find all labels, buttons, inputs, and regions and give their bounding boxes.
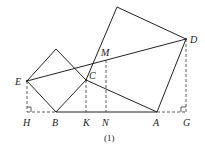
label-C: C bbox=[89, 70, 96, 81]
segment-ED bbox=[27, 39, 186, 81]
label-B: B bbox=[52, 117, 58, 128]
label-K: K bbox=[82, 117, 91, 128]
label-A: A bbox=[152, 117, 160, 128]
point-D bbox=[185, 38, 187, 40]
label-E: E bbox=[14, 76, 21, 87]
right-angle-mark-H bbox=[27, 107, 31, 112]
label-M: M bbox=[100, 47, 110, 58]
point-E bbox=[26, 80, 28, 82]
right-angle-mark-G bbox=[181, 107, 186, 112]
figure-caption: (1) bbox=[104, 133, 115, 143]
large-square bbox=[86, 7, 186, 112]
geometry-figure: E C M D H B K N A G (1) bbox=[0, 0, 205, 153]
label-H: H bbox=[22, 117, 31, 128]
label-N: N bbox=[101, 117, 110, 128]
label-D: D bbox=[189, 34, 198, 45]
small-square bbox=[27, 49, 86, 112]
label-G: G bbox=[183, 117, 190, 128]
point-C bbox=[85, 79, 87, 81]
